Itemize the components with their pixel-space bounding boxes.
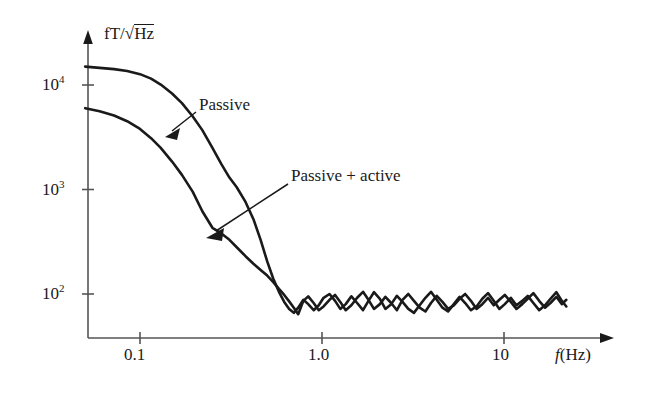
passive-label: Passive [199, 95, 250, 115]
x-axis-arrowhead [600, 333, 614, 343]
y-axis-title-prefix: fT/ [104, 24, 125, 43]
chart-canvas [0, 0, 661, 400]
x-tick-label-1-0: 1.0 [308, 345, 329, 365]
series-passive-active-line [85, 108, 566, 314]
axes-group [82, 30, 614, 344]
passive-active-leader-line [216, 184, 288, 231]
passive-leader-line [172, 112, 196, 131]
passive-active-label: Passive + active [291, 166, 401, 186]
x-tick-label-10: 10 [492, 345, 509, 365]
series-passive-line [85, 67, 566, 313]
sqrt-icon: √Hz [125, 24, 154, 44]
y-axis-title: fT/√Hz [104, 24, 154, 44]
x-axis-title: f(Hz) [555, 345, 591, 365]
y-tick-label-1e2: 102 [42, 282, 65, 304]
y-axis-arrowhead [83, 30, 93, 44]
data-series-group [85, 67, 566, 315]
y-tick-label-1e3: 103 [42, 178, 65, 200]
x-tick-label-0-1: 0.1 [124, 345, 145, 365]
x-axis-title-unit: (Hz) [560, 345, 591, 364]
figure-root: fT/√Hz 104 103 102 0.1 1.0 10 f(Hz) Pass… [0, 0, 661, 400]
y-axis-radicand: Hz [134, 24, 154, 43]
y-tick-label-1e4: 104 [42, 73, 65, 95]
